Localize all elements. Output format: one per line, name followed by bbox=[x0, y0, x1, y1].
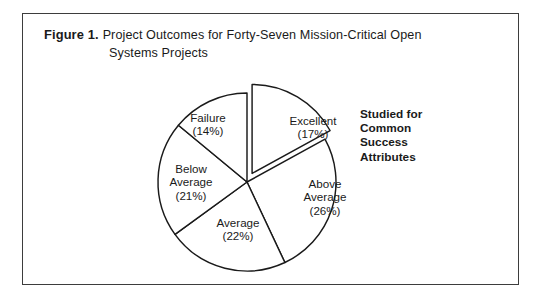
pie-label-average: Average (22%) bbox=[198, 216, 278, 243]
pie-label-excellent-name: Excellent bbox=[289, 114, 336, 127]
annotation-line-4: Attributes bbox=[360, 150, 490, 164]
pie-label-failure-name: Failure bbox=[190, 111, 225, 124]
pie-label-below-average-pct: (21%) bbox=[151, 189, 231, 202]
annotation-line-2: Common bbox=[360, 121, 490, 135]
pie-label-failure: Failure (14%) bbox=[171, 111, 245, 138]
pie-label-above-average: Above Average (26%) bbox=[286, 177, 364, 217]
pie-chart: Failure (14%) Excellent (17%) Below Aver… bbox=[23, 14, 520, 286]
pie-label-below-average-line2: Average bbox=[151, 175, 231, 188]
pie-label-failure-pct: (14%) bbox=[171, 124, 245, 137]
annotation-line-1: Studied for bbox=[360, 107, 490, 121]
pie-label-below-average: Below Average (21%) bbox=[151, 162, 231, 202]
pie-label-average-name: Average bbox=[217, 216, 260, 229]
annotation-line-3: Success bbox=[360, 135, 490, 149]
pie-label-above-average-line2: Average bbox=[286, 190, 364, 203]
pie-label-average-pct: (22%) bbox=[198, 229, 278, 242]
pie-label-above-average-line1: Above bbox=[309, 177, 342, 190]
pie-label-below-average-line1: Below bbox=[175, 162, 207, 175]
pie-label-above-average-pct: (26%) bbox=[286, 204, 364, 217]
pie-label-excellent-pct: (17%) bbox=[273, 127, 353, 140]
pie-label-excellent: Excellent (17%) bbox=[273, 114, 353, 141]
figure-frame: Figure 1.Project Outcomes for Forty-Seve… bbox=[22, 13, 519, 285]
annotation-studied-for-common-success-attributes: Studied for Common Success Attributes bbox=[360, 107, 490, 164]
